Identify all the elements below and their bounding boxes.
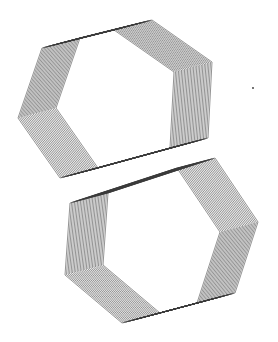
upper-outline-copy: [47, 22, 203, 170]
lower-hexagon-ribbon: [65, 158, 258, 323]
upper-outline-copy: [45, 23, 201, 171]
upper-hexagon-ribbon: [18, 20, 212, 178]
upper-outline-copy: [39, 24, 195, 172]
upper-outline-copy: [33, 26, 189, 174]
upper-outline-copy: [35, 26, 191, 174]
line-drawing-canvas: [0, 0, 278, 342]
upper-outline-copy: [53, 21, 209, 169]
upper-outline-copy: [54, 20, 210, 168]
upper-outline-copy: [23, 29, 179, 177]
upper-outline-copy: [42, 24, 198, 172]
upper-outline-copy: [38, 25, 194, 173]
upper-outline-copy: [32, 26, 188, 174]
upper-outline-copy: [36, 25, 192, 173]
upper-outline-copy: [44, 23, 200, 171]
upper-outline-copy: [26, 28, 182, 176]
upper-outline-copy: [56, 20, 212, 168]
upper-outline-copy: [24, 28, 180, 176]
upper-outline-copy: [21, 29, 177, 177]
upper-outline-copy: [29, 27, 185, 175]
upper-outline-copy: [27, 28, 183, 176]
upper-outline-copy: [48, 22, 204, 170]
upper-outline-copy: [30, 27, 186, 175]
upper-outline-copy: [50, 22, 206, 170]
upper-outline-copy: [18, 30, 174, 178]
upper-outline-copy: [51, 21, 207, 169]
stray-dot: [252, 87, 254, 89]
upper-outline-copy: [20, 30, 176, 178]
upper-outline-copy: [41, 24, 197, 172]
